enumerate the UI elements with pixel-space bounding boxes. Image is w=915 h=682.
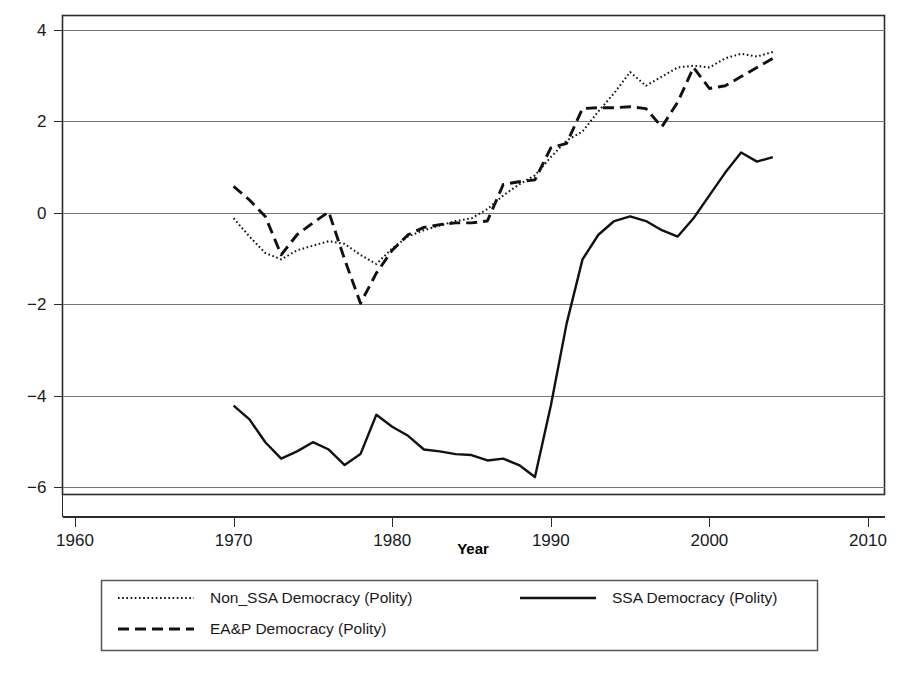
legend-label-2: EA&P Democracy (Polity): [210, 620, 386, 637]
chart-svg: 420−2−4−6 196019701980199020002010 Year …: [0, 0, 915, 682]
y-tick-label-5: −6: [27, 478, 46, 497]
x-tick-label-5: 2010: [849, 531, 887, 550]
chart-background: [0, 0, 915, 682]
legend-label-1: SSA Democracy (Polity): [612, 589, 777, 606]
x-tick-label-4: 2000: [690, 531, 728, 550]
x-tick-label-2: 1980: [373, 531, 411, 550]
x-tick-label-0: 1960: [56, 531, 94, 550]
x-tick-label-3: 1990: [532, 531, 570, 550]
y-tick-label-3: −2: [27, 295, 46, 314]
legend-label-0: Non_SSA Democracy (Polity): [210, 589, 412, 606]
x-axis-title: Year: [457, 540, 489, 557]
y-tick-label-0: 4: [37, 21, 46, 40]
y-tick-label-4: −4: [27, 387, 46, 406]
y-tick-label-1: 2: [37, 112, 46, 131]
democracy-polity-line-chart: 420−2−4−6 196019701980199020002010 Year …: [0, 0, 915, 682]
y-tick-label-2: 0: [37, 204, 46, 223]
x-tick-label-1: 1970: [215, 531, 253, 550]
